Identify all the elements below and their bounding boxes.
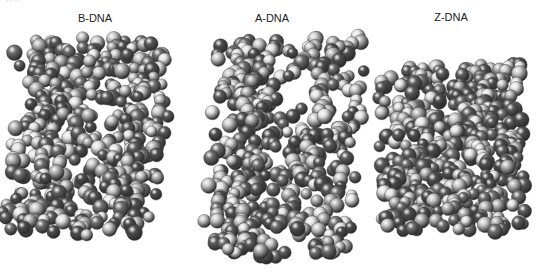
panel-label-a-dna: A-DNA (255, 12, 289, 24)
dna-model-a-dna (198, 29, 370, 264)
panel-label-z-dna: Z-DNA (434, 11, 468, 23)
dna-models-canvas (0, 0, 538, 277)
dna-model-z-dna (373, 57, 532, 239)
panel-label-b-dna: B-DNA (78, 12, 112, 24)
dna-model-b-dna (0, 31, 174, 241)
